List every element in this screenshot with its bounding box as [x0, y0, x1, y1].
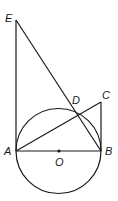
label-o: O	[55, 156, 64, 168]
label-b: B	[105, 145, 112, 157]
label-a: A	[3, 145, 11, 157]
label-c: C	[102, 89, 110, 101]
segment-eb	[16, 20, 101, 151]
geometry-diagram: E D C A B O	[0, 0, 118, 201]
center-point-o	[57, 149, 60, 152]
label-e: E	[5, 12, 13, 24]
segment-ac	[16, 102, 101, 151]
label-d: D	[72, 94, 80, 106]
